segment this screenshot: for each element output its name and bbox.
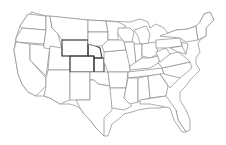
state-washington xyxy=(20,14,46,30)
state-oregon xyxy=(16,28,46,44)
state-arkansas xyxy=(108,72,128,88)
us-states-outline-map xyxy=(0,0,226,145)
state-north-dakota xyxy=(88,20,108,32)
state-missouri xyxy=(104,50,130,72)
state-arizona xyxy=(44,70,70,104)
state-new-england xyxy=(196,12,214,40)
state-new-mexico xyxy=(70,72,90,100)
